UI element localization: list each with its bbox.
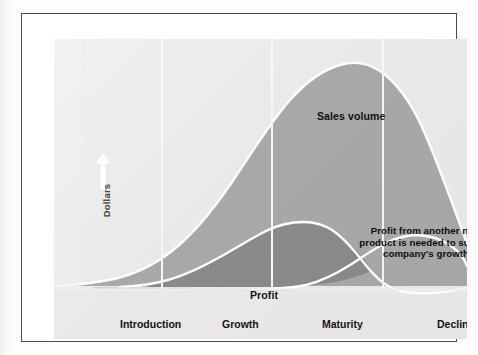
scan-artifact — [388, 332, 418, 333]
new-product-annotation: Profit from another new product is neede… — [340, 225, 467, 260]
stage-label-growth: Growth — [222, 318, 259, 330]
plot-panel: Sales volume Profit Profit from another … — [54, 39, 467, 339]
annotation-line-2: product is needed to sustain — [340, 237, 467, 249]
y-axis-group: Dollars — [90, 151, 116, 239]
scan-edge-shadow — [0, 0, 14, 355]
y-axis-gutter — [54, 39, 82, 289]
annotation-line-3: company's growth — [340, 248, 467, 260]
profit-label: Profit — [250, 289, 278, 301]
annotation-line-1: Profit from another new — [340, 225, 467, 237]
sales-volume-label: Sales volume — [317, 110, 385, 122]
stage-label-maturity: Maturity — [322, 318, 363, 330]
scan-page: Sales volume Profit Profit from another … — [0, 0, 478, 355]
stage-label-introduction: Introduction — [120, 318, 181, 330]
stage-label-decline: Decline — [437, 318, 467, 330]
y-axis-label: Dollars — [101, 178, 112, 224]
figure-border: Sales volume Profit Profit from another … — [21, 13, 457, 342]
